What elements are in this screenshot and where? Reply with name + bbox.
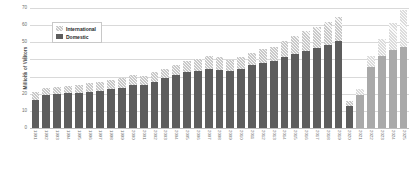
bar-segment-international[interactable] (129, 75, 137, 85)
bar-segment-domestic[interactable] (216, 70, 224, 128)
bar-slot[interactable] (106, 8, 117, 128)
bar-segment-international[interactable] (248, 53, 256, 66)
bar-segment-international[interactable] (96, 82, 104, 91)
bar-slot[interactable] (366, 8, 377, 128)
bar-slot[interactable] (322, 8, 333, 128)
bar-slot[interactable] (192, 8, 203, 128)
bar-segment-domestic[interactable] (75, 93, 83, 128)
bar-slot[interactable] (268, 8, 279, 128)
bar-slot[interactable] (333, 8, 344, 128)
bar-segment-international[interactable] (86, 83, 94, 92)
bar-slot[interactable] (171, 8, 182, 128)
bar-slot[interactable] (377, 8, 388, 128)
bar-segment-international[interactable] (270, 47, 278, 62)
bar-segment-domestic[interactable] (32, 100, 40, 128)
bar-segment-international[interactable] (281, 41, 289, 57)
bar-slot[interactable] (30, 8, 41, 128)
bar-segment-domestic[interactable] (237, 69, 245, 128)
bar-segment-domestic[interactable] (356, 95, 364, 128)
bar-segment-international[interactable] (194, 59, 202, 71)
bar-segment-international[interactable] (226, 60, 234, 71)
bar-segment-domestic[interactable] (346, 106, 354, 128)
bar-stack[interactable] (378, 8, 386, 128)
bar-stack[interactable] (194, 8, 202, 128)
bar-stack[interactable] (400, 8, 408, 128)
bar-slot[interactable] (41, 8, 52, 128)
bar-stack[interactable] (389, 8, 397, 128)
bar-segment-international[interactable] (172, 65, 180, 75)
bar-segment-domestic[interactable] (281, 57, 289, 128)
bar-segment-domestic[interactable] (161, 78, 169, 128)
bar-segment-domestic[interactable] (42, 95, 50, 128)
bar-segment-international[interactable] (205, 56, 213, 69)
bar-stack[interactable] (346, 8, 354, 128)
bar-segment-domestic[interactable] (400, 47, 408, 128)
bar-slot[interactable] (257, 8, 268, 128)
bar-stack[interactable] (205, 8, 213, 128)
bar-segment-domestic[interactable] (53, 94, 61, 128)
bar-stack[interactable] (32, 8, 40, 128)
bar-slot[interactable] (312, 8, 323, 128)
bar-segment-domestic[interactable] (324, 45, 332, 128)
bar-stack[interactable] (367, 8, 375, 128)
bar-stack[interactable] (237, 8, 245, 128)
bar-stack[interactable] (248, 8, 256, 128)
bar-segment-international[interactable] (389, 23, 397, 50)
bar-segment-international[interactable] (259, 49, 267, 63)
bar-slot[interactable] (355, 8, 366, 128)
bar-stack[interactable] (259, 8, 267, 128)
bar-segment-domestic[interactable] (205, 69, 213, 128)
bar-stack[interactable] (270, 8, 278, 128)
bar-segment-domestic[interactable] (313, 48, 321, 128)
bar-stack[interactable] (313, 8, 321, 128)
bar-segment-international[interactable] (324, 22, 332, 45)
bar-segment-international[interactable] (32, 92, 40, 100)
bar-stack[interactable] (216, 8, 224, 128)
bar-slot[interactable] (182, 8, 193, 128)
bar-segment-international[interactable] (335, 17, 343, 41)
bar-segment-domestic[interactable] (118, 88, 126, 128)
bar-segment-domestic[interactable] (302, 51, 310, 128)
bar-segment-domestic[interactable] (367, 67, 375, 128)
bar-stack[interactable] (118, 8, 126, 128)
bar-segment-domestic[interactable] (248, 65, 256, 128)
bar-stack[interactable] (42, 8, 50, 128)
bar-slot[interactable] (117, 8, 128, 128)
bar-segment-domestic[interactable] (335, 41, 343, 128)
bar-stack[interactable] (302, 8, 310, 128)
bar-slot[interactable] (301, 8, 312, 128)
bar-slot[interactable] (225, 8, 236, 128)
bar-segment-international[interactable] (53, 87, 61, 94)
bar-segment-international[interactable] (183, 61, 191, 72)
bar-segment-international[interactable] (400, 10, 408, 47)
bar-slot[interactable] (398, 8, 409, 128)
bar-segment-international[interactable] (42, 88, 50, 95)
bar-stack[interactable] (291, 8, 299, 128)
bar-segment-international[interactable] (118, 78, 126, 87)
bar-stack[interactable] (335, 8, 343, 128)
bar-segment-domestic[interactable] (172, 75, 180, 128)
bar-segment-domestic[interactable] (226, 71, 234, 128)
bar-segment-domestic[interactable] (151, 82, 159, 128)
bar-slot[interactable] (344, 8, 355, 128)
bar-slot[interactable] (138, 8, 149, 128)
bar-stack[interactable] (356, 8, 364, 128)
bar-segment-international[interactable] (161, 69, 169, 78)
bar-slot[interactable] (149, 8, 160, 128)
bar-segment-international[interactable] (302, 31, 310, 51)
bar-stack[interactable] (129, 8, 137, 128)
bar-segment-international[interactable] (75, 85, 83, 93)
bar-segment-domestic[interactable] (378, 56, 386, 128)
bar-segment-domestic[interactable] (96, 91, 104, 128)
bar-slot[interactable] (236, 8, 247, 128)
bar-segment-domestic[interactable] (140, 85, 148, 128)
bar-segment-international[interactable] (291, 36, 299, 54)
bar-segment-international[interactable] (107, 80, 115, 89)
bar-slot[interactable] (203, 8, 214, 128)
bar-stack[interactable] (324, 8, 332, 128)
bar-segment-international[interactable] (216, 57, 224, 70)
bar-stack[interactable] (161, 8, 169, 128)
bar-segment-domestic[interactable] (291, 54, 299, 128)
bar-stack[interactable] (140, 8, 148, 128)
bar-segment-domestic[interactable] (129, 85, 137, 128)
